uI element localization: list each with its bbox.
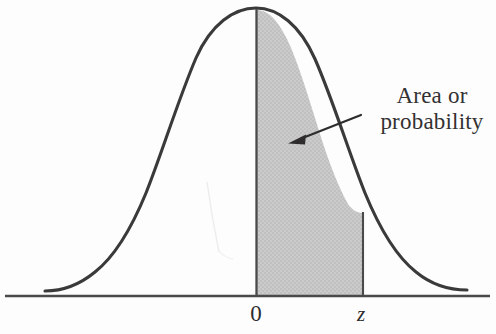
axis-tick-label-mean: 0 — [236, 302, 276, 325]
normal-distribution-figure: Area or probability 0 z — [0, 0, 496, 334]
annotation-line-1: Area or — [370, 84, 494, 107]
shaded-area-region — [256, 10, 363, 295]
distribution-curve-graphic — [0, 0, 496, 334]
area-or-probability-annotation: Area or probability — [370, 84, 494, 133]
axis-tick-label-z: z — [341, 304, 381, 325]
scan-blemish — [207, 182, 233, 259]
annotation-line-2: probability — [370, 110, 494, 133]
